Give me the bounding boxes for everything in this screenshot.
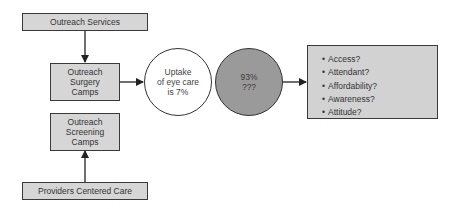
screening-line-1: Outreach bbox=[68, 117, 103, 127]
uptake-line-3: is 7% bbox=[168, 87, 189, 97]
barrier-item: •Attendant? bbox=[322, 66, 437, 79]
screening-line-3: Camps bbox=[72, 137, 99, 147]
outreach-services-label: Outreach Services bbox=[50, 17, 120, 27]
surgery-line-3: Camps bbox=[72, 87, 99, 97]
outreach-surgery-camps-box: Outreach Surgery Camps bbox=[50, 63, 120, 101]
providers-label: Providers Centered Care bbox=[38, 186, 132, 196]
surgery-line-2: Surgery bbox=[70, 77, 100, 87]
gap-line-2: ??? bbox=[242, 82, 256, 92]
providers-centered-care-box: Providers Centered Care bbox=[22, 182, 148, 200]
outreach-services-box: Outreach Services bbox=[22, 13, 148, 31]
barriers-list-box: •Access? •Attendant? •Affordability? •Aw… bbox=[307, 45, 438, 119]
uptake-line-2: of eye care bbox=[157, 77, 199, 87]
outreach-screening-camps-box: Outreach Screening Camps bbox=[50, 113, 120, 151]
barrier-item: •Attitude? bbox=[322, 106, 437, 119]
barrier-item: •Access? bbox=[322, 53, 437, 66]
uptake-line-1: Uptake bbox=[165, 67, 192, 77]
screening-line-2: Screening bbox=[66, 127, 104, 137]
barrier-item: •Affordability? bbox=[322, 80, 437, 93]
gap-line-1: 93% bbox=[240, 72, 257, 82]
surgery-line-1: Outreach bbox=[68, 67, 103, 77]
gap-circle: 93% ??? bbox=[215, 48, 283, 116]
uptake-circle: Uptake of eye care is 7% bbox=[144, 48, 212, 116]
barrier-item: •Awareness? bbox=[322, 93, 437, 106]
